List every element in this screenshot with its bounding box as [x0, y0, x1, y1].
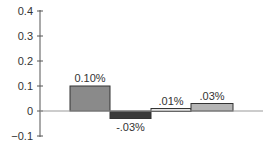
data-label: 0.10% — [74, 72, 105, 84]
data-label: .03% — [199, 90, 224, 102]
data-label: -.03% — [116, 121, 145, 133]
y-tick-label: 0.1 — [18, 80, 33, 92]
bar — [110, 111, 151, 119]
y-tick-label: 0.2 — [18, 55, 33, 67]
y-tick-label: 0 — [27, 105, 33, 117]
y-axis: 0.40.30.20.10−0.1 — [11, 5, 43, 142]
bar-chart: 0.40.30.20.10−0.1 0.10%-.03%.01%.03% — [0, 0, 275, 147]
y-tick-label: 0.3 — [18, 30, 33, 42]
data-label: .01% — [158, 95, 183, 107]
y-tick-label: 0.4 — [18, 5, 33, 17]
chart-svg: 0.40.30.20.10−0.1 0.10%-.03%.01%.03% — [0, 0, 275, 147]
y-tick-label: −0.1 — [11, 130, 33, 142]
bar — [191, 104, 233, 112]
bar — [70, 86, 110, 111]
